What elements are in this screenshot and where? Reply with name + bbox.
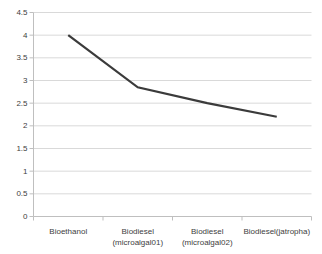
line-chart: 00.511.522.533.544.5BioethanolBiodiesel(… [0, 0, 322, 254]
y-tick-label: 2 [23, 121, 28, 130]
category-label: (microalgal02) [182, 238, 233, 247]
line-chart-svg: 00.511.522.533.544.5BioethanolBiodiesel(… [0, 0, 322, 254]
y-tick-label: 1.5 [16, 144, 28, 153]
y-tick-label: 2.5 [16, 99, 28, 108]
y-tick-label: 0.5 [16, 189, 28, 198]
y-tick-label: 1 [23, 167, 28, 176]
category-label: (microalgal01) [112, 238, 163, 247]
y-tick-label: 0 [23, 212, 28, 221]
category-label: Bioethanol [49, 227, 87, 236]
data-series-line [68, 35, 277, 117]
category-label: Biodiesel(jatropha) [243, 227, 310, 236]
category-label: Biodiesel [122, 227, 155, 236]
y-tick-label: 4.5 [16, 8, 28, 17]
y-tick-label: 3 [23, 76, 28, 85]
y-tick-label: 4 [23, 31, 28, 40]
y-tick-label: 3.5 [16, 53, 28, 62]
category-label: Biodiesel [191, 227, 224, 236]
